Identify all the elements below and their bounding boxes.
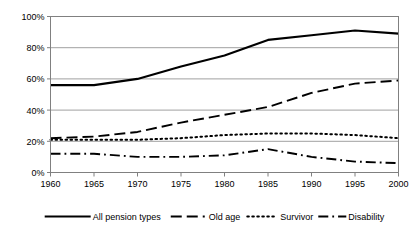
- grid-lines: [51, 17, 399, 142]
- legend-item-old-age: Old age: [171, 212, 241, 222]
- x-axis-tick-label: 2000: [388, 179, 408, 189]
- series-line-old-age: [51, 80, 399, 138]
- legend-item-all-pension-types: All pension types: [45, 212, 162, 222]
- y-axis-tick-label: 60%: [26, 74, 44, 84]
- x-axis-tick-label: 1975: [171, 179, 191, 189]
- legend-label: Disability: [348, 212, 385, 222]
- legend-label: Old age: [209, 212, 241, 222]
- y-axis-tick-label: 100%: [21, 12, 44, 22]
- x-axis-tick-label: 1980: [214, 179, 234, 189]
- x-axis-tick-label: 1960: [40, 179, 60, 189]
- series-line-disability: [51, 149, 399, 163]
- x-axis-tick-label: 1965: [84, 179, 104, 189]
- y-axis-tick-label: 0%: [31, 168, 44, 178]
- y-axis-tick-label: 80%: [26, 43, 44, 53]
- series-group: [51, 31, 399, 164]
- x-axis-tick-label: 1990: [301, 179, 321, 189]
- line-chart: 1960196519701975198019851990199520000%20…: [0, 0, 413, 235]
- series-line-all-pension-types: [51, 31, 399, 86]
- x-axis-tick-label: 1970: [127, 179, 147, 189]
- chart-canvas: 1960196519701975198019851990199520000%20…: [0, 0, 413, 235]
- y-axis-labels: 0%20%40%60%80%100%: [21, 12, 44, 178]
- legend-item-disability: Disability: [318, 212, 385, 222]
- legend: All pension typesOld ageSurvivorDisabili…: [45, 212, 385, 222]
- x-axis-labels: 196019651970197519801985199019952000: [40, 179, 408, 189]
- y-axis-tick-label: 20%: [26, 137, 44, 147]
- x-axis-tick-label: 1995: [345, 179, 365, 189]
- legend-item-survivor: Survivor: [247, 212, 313, 222]
- plot-border: [51, 17, 399, 173]
- legend-label: All pension types: [93, 212, 162, 222]
- legend-label: Survivor: [280, 212, 313, 222]
- x-axis-tick-label: 1985: [258, 179, 278, 189]
- axes: [47, 17, 399, 177]
- y-axis-tick-label: 40%: [26, 106, 44, 116]
